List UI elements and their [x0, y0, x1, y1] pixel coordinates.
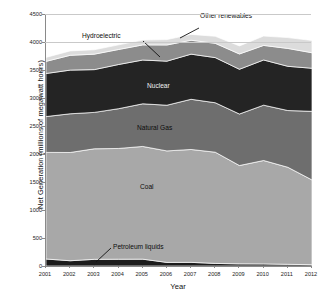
area-series-canvas [46, 14, 312, 266]
x-tick-mark [190, 266, 191, 268]
x-tick-mark [118, 266, 119, 268]
x-tick-mark [69, 266, 70, 268]
x-tick-mark [311, 266, 312, 268]
area-series-coal [46, 146, 312, 264]
series-label-natural-gas: Natural Gas [137, 124, 172, 131]
x-tick-mark [142, 266, 143, 268]
x-axis-title: Year [44, 282, 312, 291]
series-label-petroleum-liquids: Petroleum liquids [113, 243, 164, 250]
y-tick-label: 2500 [2, 123, 42, 129]
gridline [45, 14, 311, 15]
y-tick-label: 3000 [2, 95, 42, 101]
x-tick-mark [238, 266, 239, 268]
plot-area [45, 14, 312, 267]
gridline [45, 42, 311, 43]
y-tick-label: 500 [2, 235, 42, 241]
x-tick-mark [93, 266, 94, 268]
x-tick-mark [214, 266, 215, 268]
y-axis-tick-group: 050010001500200025003000350040004500 [0, 0, 42, 302]
series-label-coal: Coal [140, 183, 154, 190]
y-tick-label: 3500 [2, 67, 42, 73]
series-label-hydroelectric: Hydroelectric [82, 32, 120, 39]
x-tick-mark [263, 266, 264, 268]
y-tick-label: 1500 [2, 179, 42, 185]
y-tick-label: 1000 [2, 207, 42, 213]
x-axis-tick-group: 2001200220032004200520062007200820092010… [0, 268, 326, 282]
series-label-nuclear: Nuclear [147, 82, 170, 89]
y-tick-label: 2000 [2, 151, 42, 157]
x-tick-mark [45, 266, 46, 268]
stacked-area-chart-figure: Net Generation (millions of megawatt hou… [0, 0, 326, 302]
x-tick-label: 2012 [296, 271, 326, 277]
y-tick-label: 4000 [2, 39, 42, 45]
y-tick-label: 4500 [2, 11, 42, 17]
x-tick-mark [287, 266, 288, 268]
x-tick-mark [166, 266, 167, 268]
